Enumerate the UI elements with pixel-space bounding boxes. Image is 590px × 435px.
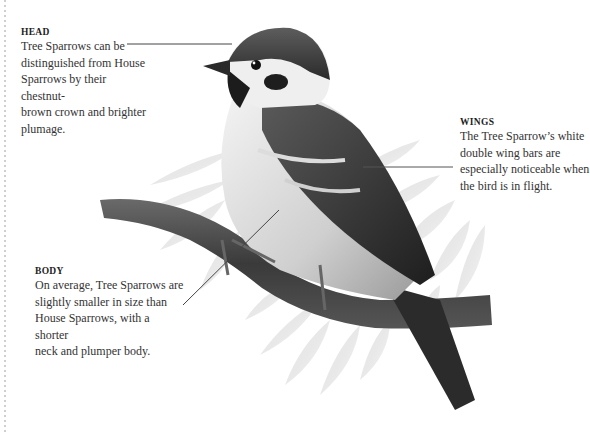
callout-body: BODY On average, Tree Sparrows are sligh…	[35, 266, 185, 360]
eye	[251, 60, 261, 70]
callout-head-title: HEAD	[21, 27, 146, 37]
callout-body-text: On average, Tree Sparrows are slightly s…	[35, 277, 185, 360]
callout-body-title: BODY	[35, 266, 185, 276]
cheek-patch	[264, 74, 288, 90]
callout-wings-title: WINGS	[460, 117, 590, 127]
callout-wings-text: The Tree Sparrow’s white double wing bar…	[460, 128, 590, 194]
beak	[203, 60, 230, 76]
callout-head: HEAD Tree Sparrows can be distinguished …	[21, 27, 146, 137]
callout-wings: WINGS The Tree Sparrow’s white double wi…	[460, 117, 590, 194]
callout-head-text: Tree Sparrows can be distinguished from …	[21, 38, 146, 137]
